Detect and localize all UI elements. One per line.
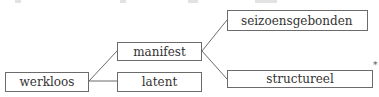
edge-manifest-structureel (202, 51, 227, 79)
node-label: latent (142, 76, 177, 88)
edge-manifest-seizoensgebonden (202, 20, 227, 51)
node-seizoensgebonden: seizoensgebonden (227, 10, 368, 31)
node-werkloos: werkloos (5, 72, 89, 92)
node-latent: latent (117, 72, 202, 92)
node-label: manifest (133, 46, 186, 58)
node-label: structureel (266, 73, 334, 85)
tree-diagram: werkloos manifest latent seizoensgebonde… (0, 0, 379, 97)
edge-werkloos-manifest (89, 51, 117, 81)
node-structureel: structureel (227, 70, 373, 88)
asterisk-annotation: * (373, 60, 378, 70)
node-label: werkloos (20, 76, 75, 88)
node-manifest: manifest (117, 42, 202, 61)
node-label: seizoensgebonden (241, 15, 353, 27)
